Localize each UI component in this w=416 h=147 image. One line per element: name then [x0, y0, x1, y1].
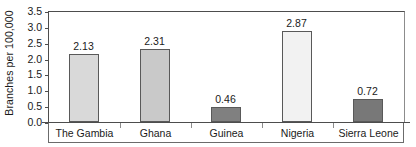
bar-group: 0.72: [332, 11, 403, 122]
x-axis-category-label-text: The Gambia: [56, 127, 114, 139]
bar[interactable]: [69, 54, 99, 122]
bar[interactable]: [211, 107, 241, 122]
y-axis-tick-label: 0.0: [17, 116, 42, 128]
x-axis-category-label-2: Ghana: [120, 123, 191, 142]
y-axis-tick-label: 2.0: [17, 53, 42, 65]
x-axis-cell-divider: [262, 123, 263, 128]
bar-value-label: 2.31: [144, 35, 164, 47]
x-axis-category-label-text: Ghana: [140, 127, 172, 139]
y-axis-title: Branches per 100,000: [0, 0, 18, 126]
bar-value-label: 0.46: [215, 93, 235, 105]
y-axis-tick-labels: 3.53.02.52.01.51.00.50.0: [17, 11, 42, 122]
x-axis-category-label-3: Guinea: [191, 123, 262, 142]
bar-group: 2.87: [261, 11, 332, 122]
x-axis-category-label-4: Nigeria: [262, 123, 333, 142]
y-axis-tick-label: 1.0: [17, 84, 42, 96]
y-axis-tick-label: 2.5: [17, 37, 42, 49]
y-axis-title-text: Branches per 100,000: [3, 10, 15, 115]
y-axis-tick-label: 0.5: [17, 100, 42, 112]
x-axis-cell-divider: [333, 123, 334, 128]
x-axis-cell-divider: [191, 123, 192, 128]
bar-group: 2.13: [48, 11, 119, 122]
bar-value-label: 0.72: [357, 85, 377, 97]
y-axis-tick-label: 3.0: [17, 21, 42, 33]
bar-chart: Branches per 100,000 3.53.02.52.01.51.00…: [0, 0, 416, 147]
y-axis-tick-label: 3.5: [17, 5, 42, 17]
y-axis-tick-label: 1.5: [17, 68, 42, 80]
x-axis-category-label-text: Guinea: [210, 127, 244, 139]
x-axis-category-labels: The GambiaGhanaGuineaNigeriaSierra Leone: [48, 123, 404, 143]
bar[interactable]: [140, 49, 170, 122]
bar-group: 2.31: [119, 11, 190, 122]
x-axis-category-label-text: Nigeria: [281, 127, 314, 139]
bar-group: 0.46: [190, 11, 261, 122]
x-axis-category-label-text: Sierra Leone: [338, 127, 398, 139]
x-axis-cell-divider: [120, 123, 121, 128]
x-axis-category-label-5: Sierra Leone: [333, 123, 404, 142]
bar[interactable]: [282, 31, 312, 122]
bar-value-label: 2.87: [286, 17, 306, 29]
bars-layer: 2.132.310.462.870.72: [48, 11, 403, 122]
bar[interactable]: [353, 99, 383, 122]
bar-value-label: 2.13: [73, 40, 93, 52]
x-axis-category-label-1: The Gambia: [49, 123, 120, 142]
